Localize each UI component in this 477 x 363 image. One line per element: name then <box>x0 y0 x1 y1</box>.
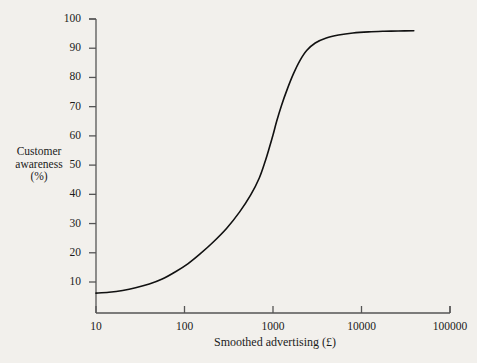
y-tick-label: 100 <box>51 13 81 25</box>
y-tick-label: 80 <box>51 71 81 83</box>
y-axis-ticks <box>89 19 96 282</box>
y-tick-label: 90 <box>51 42 81 54</box>
x-axis-ticks <box>96 306 450 313</box>
y-tick-label: 70 <box>51 101 81 113</box>
y-tick-label: 50 <box>51 159 81 171</box>
y-tick-label: 40 <box>51 188 81 200</box>
y-tick-label: 10 <box>51 276 81 288</box>
awareness-response-curve <box>96 31 414 293</box>
x-tick-label: 1000 <box>243 321 303 333</box>
x-tick-label: 10 <box>66 321 126 333</box>
chart-figure: Customer awareness (%) Smoothed advertis… <box>0 0 477 363</box>
y-axis-title-line-3: (%) <box>2 170 76 183</box>
y-axis-title-line-1: Customer <box>2 145 76 158</box>
y-tick-label: 60 <box>51 130 81 142</box>
x-tick-label: 10000 <box>332 321 392 333</box>
y-tick-label: 20 <box>51 247 81 259</box>
y-tick-label: 30 <box>51 218 81 230</box>
x-tick-label: 100000 <box>420 321 477 333</box>
x-tick-label: 100 <box>155 321 215 333</box>
x-axis-title: Smoothed advertising (£) <box>150 336 400 349</box>
